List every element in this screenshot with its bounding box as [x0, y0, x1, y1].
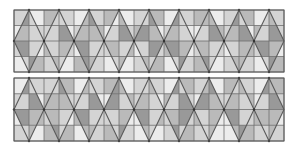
vertex-dot	[163, 40, 165, 42]
vertex-dot	[73, 108, 75, 110]
vertex-dot	[43, 108, 45, 110]
vertex-dot	[223, 108, 225, 110]
vertex-dot	[103, 40, 105, 42]
vertex-dot	[163, 108, 165, 110]
vertex-dot	[73, 40, 75, 42]
vertex-dot	[193, 40, 195, 42]
vertex-dot	[253, 108, 255, 110]
bottom-pattern-panel	[13, 77, 284, 142]
vertex-dot	[103, 108, 105, 110]
vertex-dot	[253, 40, 255, 42]
tiled-diamond-figure	[0, 0, 295, 149]
vertex-dot	[193, 108, 195, 110]
vertex-dot	[43, 40, 45, 42]
vertex-dot	[223, 40, 225, 42]
top-pattern-panel	[13, 9, 284, 73]
vertex-dot	[133, 40, 135, 42]
vertex-dot	[133, 108, 135, 110]
